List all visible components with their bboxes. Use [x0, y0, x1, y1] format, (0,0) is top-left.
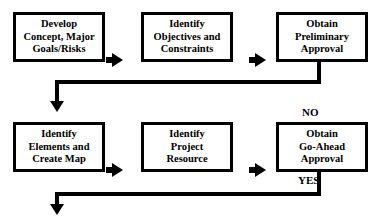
node-line: Develop [41, 18, 77, 31]
node-line: Identify [169, 18, 205, 31]
arrow-elements-to-resource-shaft [106, 167, 114, 173]
node-line: Resource [166, 153, 207, 166]
node-line: Go-Ahead [299, 141, 345, 154]
node-line: Obtain [306, 128, 338, 141]
node-line: Approval [301, 43, 343, 56]
node-develop-concept[interactable]: Develop Concept, Major Goals/Risks [13, 12, 105, 62]
node-line: Preliminary [295, 31, 349, 44]
node-line: Objectives and [154, 31, 221, 44]
node-line: Obtain [306, 18, 338, 31]
loop1-vertical-into-node [55, 80, 59, 103]
loop1-horizontal [55, 80, 321, 84]
flowchart-canvas: Develop Concept, Major Goals/Risks Ident… [0, 0, 377, 219]
node-line: Elements and [29, 141, 90, 154]
loop2-horizontal [55, 192, 321, 196]
node-identify-elements[interactable]: Identify Elements and Create Map [13, 122, 105, 172]
arrow-develop-to-objectives-shaft [106, 57, 114, 63]
arrow-loop1-head [50, 101, 64, 112]
node-line: Create Map [32, 153, 86, 166]
node-line: Concept, Major [23, 31, 94, 44]
node-line: Goals/Risks [32, 43, 85, 56]
node-identify-project-resource[interactable]: Identify Project Resource [141, 122, 233, 172]
node-identify-objectives[interactable]: Identify Objectives and Constraints [141, 12, 233, 62]
node-obtain-preliminary-approval[interactable]: Obtain Preliminary Approval [276, 12, 368, 62]
node-line: Identify [41, 128, 77, 141]
node-line: Identify [169, 128, 205, 141]
arrow-resource-to-goahead-shaft [249, 167, 257, 173]
arrow-objectives-to-preliminary-shaft [249, 57, 257, 63]
edge-label-no: NO [302, 106, 319, 118]
node-obtain-go-ahead-approval[interactable]: Obtain Go-Ahead Approval [276, 122, 368, 172]
arrow-loop2-head [50, 204, 64, 215]
node-line: Project [171, 141, 203, 154]
node-line: Approval [301, 153, 343, 166]
node-line: Constraints [161, 43, 214, 56]
